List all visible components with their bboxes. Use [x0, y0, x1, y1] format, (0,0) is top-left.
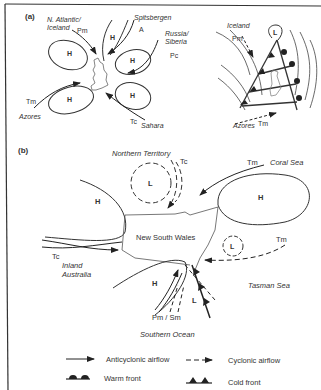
svg-text:Russia/: Russia/	[165, 30, 189, 37]
svg-text:Tasman Sea: Tasman Sea	[248, 281, 290, 290]
svg-text:Sahara: Sahara	[141, 122, 164, 129]
svg-text:Azores: Azores	[232, 122, 255, 129]
svg-text:H: H	[67, 50, 72, 57]
svg-text:L: L	[192, 296, 197, 305]
top-border	[5, 4, 321, 6]
warm-front-semicircles	[281, 49, 302, 101]
left-border	[5, 4, 8, 390]
high-nsw-left	[45, 180, 126, 241]
svg-text:Iceland: Iceland	[47, 24, 71, 31]
svg-text:Anticyclonic airflow: Anticyclonic airflow	[106, 355, 170, 364]
svg-text:H: H	[67, 96, 72, 103]
svg-text:L: L	[230, 243, 235, 250]
svg-text:Pm: Pm	[232, 35, 243, 42]
high-coral-sea	[218, 174, 309, 225]
svg-text:Siberia: Siberia	[165, 38, 187, 45]
svg-text:Tm: Tm	[276, 235, 287, 244]
svg-text:L: L	[148, 179, 153, 188]
svg-text:Tc: Tc	[130, 118, 138, 125]
svg-text:Pm: Pm	[77, 27, 88, 34]
svg-text:H: H	[130, 57, 135, 64]
svg-text:Azores: Azores	[18, 113, 41, 120]
legend: Anticyclonic airflow Cyclonic airflow Wa…	[66, 355, 281, 387]
panel-b-label: (b)	[18, 146, 29, 155]
svg-text:Inland: Inland	[62, 261, 83, 270]
anticyclonic-arrows	[34, 20, 158, 120]
svg-text:Tm: Tm	[258, 120, 268, 127]
svg-text:New South Wales: New South Wales	[136, 233, 196, 242]
svg-text:Cold front: Cold front	[228, 378, 261, 387]
svg-text:H: H	[152, 279, 157, 288]
svg-text:Coral Sea: Coral Sea	[270, 158, 303, 167]
svg-text:Cyclonic airflow: Cyclonic airflow	[228, 356, 281, 365]
svg-text:H: H	[258, 193, 263, 202]
tc-inland-arrow	[42, 240, 118, 250]
svg-text:Southern Ocean: Southern Ocean	[140, 330, 195, 339]
svg-text:H: H	[130, 92, 135, 99]
svg-text:Spitsbergen: Spitsbergen	[134, 14, 171, 22]
svg-text:H: H	[110, 34, 115, 41]
frontal-system	[240, 40, 297, 110]
svg-text:Tm: Tm	[247, 158, 258, 167]
uk-outline	[91, 58, 108, 90]
svg-text:Pm / Sm: Pm / Sm	[152, 313, 181, 322]
svg-text:N. Atlantic/: N. Atlantic/	[47, 16, 82, 23]
uk-outline-right	[270, 70, 281, 96]
svg-text:Tc: Tc	[52, 252, 60, 261]
svg-text:Pc: Pc	[170, 52, 179, 59]
svg-text:H: H	[95, 197, 100, 206]
svg-text:Iceland: Iceland	[227, 22, 251, 29]
airmass-diagram: (a) H H H H H N. Atlantic/ Iceland Spits…	[0, 0, 321, 390]
svg-text:Tc: Tc	[180, 157, 188, 166]
svg-text:Warm front: Warm front	[104, 374, 142, 383]
svg-text:Northern Territory: Northern Territory	[112, 149, 172, 158]
svg-text:Australia: Australia	[61, 270, 91, 279]
svg-text:A: A	[139, 26, 144, 33]
panel-a-label: (a)	[25, 12, 35, 21]
svg-text:Tm: Tm	[26, 98, 36, 105]
svg-text:L: L	[273, 29, 278, 36]
